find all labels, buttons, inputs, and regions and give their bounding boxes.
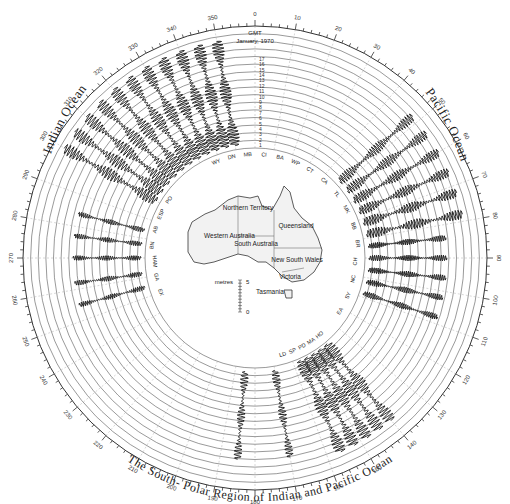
station-label: CT bbox=[305, 165, 315, 174]
degree-label: 240 bbox=[39, 374, 50, 386]
day-label: 5 bbox=[259, 121, 262, 127]
station-label: WP bbox=[290, 158, 301, 167]
degree-label: 330 bbox=[127, 41, 139, 52]
station-label: SY bbox=[344, 291, 352, 300]
station-label: SP bbox=[288, 346, 297, 354]
degree-label: 250 bbox=[21, 336, 30, 348]
station-label: AB bbox=[151, 225, 159, 234]
station-label: WY bbox=[211, 157, 222, 166]
state-new-south-wales: New South Wales bbox=[271, 256, 323, 263]
day-label: 12 bbox=[259, 83, 265, 89]
pacific-ocean-label: Pacific Ocean bbox=[423, 85, 473, 163]
degree-label: 220 bbox=[92, 439, 104, 450]
station-label: BR bbox=[354, 239, 361, 247]
station-label: EA bbox=[335, 306, 344, 316]
tide-trace bbox=[363, 189, 456, 225]
station-label: CA bbox=[320, 176, 330, 186]
indian-ocean-label: Indian Ocean bbox=[39, 81, 89, 155]
degree-label: 80 bbox=[492, 212, 499, 220]
tide-trace bbox=[368, 268, 446, 281]
day-label: 10 bbox=[259, 94, 265, 100]
tide-diagram: 0102030405060708090100110120130140150160… bbox=[0, 0, 510, 504]
tide-trace bbox=[98, 100, 177, 179]
australia-map: Western Australia Northern Territory Que… bbox=[188, 186, 323, 298]
date-label: January, 1970 bbox=[236, 38, 274, 44]
degree-label: 350 bbox=[207, 14, 219, 22]
station-label: GA bbox=[153, 273, 160, 282]
day-label: 17 bbox=[259, 56, 265, 62]
station-label: BN bbox=[148, 241, 155, 249]
degree-label: 270 bbox=[8, 252, 14, 263]
degree-label: 120 bbox=[461, 374, 472, 386]
degree-label: 0 bbox=[253, 11, 257, 17]
state-tasmania: Tasmania bbox=[256, 288, 284, 295]
tide-trace bbox=[297, 360, 345, 452]
degree-label: 10 bbox=[294, 14, 302, 21]
state-western-australia: Western Australia bbox=[204, 232, 255, 239]
state-south-australia: South Australia bbox=[234, 240, 278, 247]
degree-label: 40 bbox=[407, 67, 416, 76]
time-label: GMT bbox=[248, 30, 262, 36]
station-label: TL bbox=[333, 190, 342, 199]
scale-min: 0 bbox=[246, 309, 250, 315]
day-label: 1 bbox=[259, 142, 262, 148]
day-label: 9 bbox=[259, 99, 262, 105]
degree-label: 340 bbox=[166, 24, 178, 33]
station-label: BB bbox=[350, 221, 358, 230]
degree-label: 320 bbox=[92, 65, 104, 76]
scale-unit-label: metres bbox=[215, 279, 233, 285]
station-label: MK bbox=[342, 204, 351, 214]
day-labels: 1234567891011121314151617 bbox=[259, 56, 265, 149]
tide-trace bbox=[368, 236, 446, 249]
degree-label: 260 bbox=[11, 295, 19, 307]
degree-label: 290 bbox=[21, 168, 30, 180]
day-label: 6 bbox=[259, 115, 262, 121]
metres-scale: metres 5 0 bbox=[215, 279, 250, 315]
degree-label: 280 bbox=[11, 210, 19, 222]
degree-label: 110 bbox=[480, 335, 489, 347]
degree-label: 100 bbox=[491, 294, 499, 306]
day-label: 3 bbox=[259, 131, 262, 137]
station-label: BA bbox=[276, 153, 285, 161]
tide-trace bbox=[234, 372, 248, 460]
station-label: MA bbox=[306, 336, 316, 346]
day-label: 11 bbox=[259, 88, 264, 94]
day-label: 8 bbox=[259, 104, 262, 110]
station-label: ESP bbox=[156, 207, 166, 220]
state-queensland: Queensland bbox=[278, 222, 313, 230]
station-label: EX bbox=[157, 288, 165, 297]
degree-label: 70 bbox=[480, 170, 488, 179]
station-label: DN bbox=[227, 153, 236, 161]
day-label: 16 bbox=[259, 61, 265, 67]
station-label: PO bbox=[164, 194, 174, 205]
degree-label: 130 bbox=[436, 409, 447, 421]
state-northern-territory: Northern Territory bbox=[223, 204, 274, 212]
tide-trace bbox=[312, 353, 371, 438]
station-label: MB bbox=[243, 151, 252, 158]
degree-label: 30 bbox=[373, 42, 382, 51]
station-label: HAM bbox=[152, 255, 158, 268]
station-label: CI bbox=[261, 151, 267, 157]
day-label: 2 bbox=[259, 137, 262, 143]
tide-trace bbox=[369, 255, 447, 261]
degree-label: 140 bbox=[406, 439, 418, 450]
station-label: PD bbox=[297, 342, 307, 351]
day-label: 4 bbox=[259, 126, 262, 132]
state-victoria: Victoria bbox=[279, 273, 301, 280]
polar-tide-chart: 0102030405060708090100110120130140150160… bbox=[0, 0, 510, 504]
station-label: NC bbox=[349, 274, 357, 283]
station-label: LD bbox=[278, 350, 286, 358]
degree-label: 230 bbox=[63, 409, 74, 421]
day-label: 13 bbox=[259, 77, 265, 83]
scale-max: 5 bbox=[246, 279, 250, 285]
day-label: 7 bbox=[259, 110, 262, 116]
tasmania-outline bbox=[284, 290, 292, 298]
degree-label: 90 bbox=[496, 255, 502, 262]
day-label: 15 bbox=[259, 67, 265, 73]
day-label: 14 bbox=[259, 72, 265, 78]
station-label: HO bbox=[314, 329, 325, 339]
station-label: CH bbox=[352, 257, 358, 265]
degree-label: 20 bbox=[334, 25, 343, 33]
